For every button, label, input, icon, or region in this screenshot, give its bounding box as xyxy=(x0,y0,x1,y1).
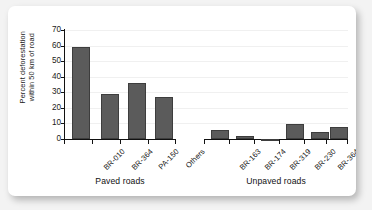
gridline-60 xyxy=(65,46,348,47)
x-tick-unpaved-0 xyxy=(204,140,205,144)
x-category-label-br-230: BR-230 xyxy=(313,147,338,172)
y-tick-label-40: 40 xyxy=(39,73,61,81)
y-axis-line xyxy=(64,29,65,140)
group-label-unpaved-roads: Unpaved roads xyxy=(204,176,348,186)
x-tick-paved-1 xyxy=(92,140,93,144)
x-category-label-br-010: BR-010 xyxy=(102,147,127,172)
y-tick-label-50: 50 xyxy=(39,57,61,65)
figure-root: Percent deforestation within 50 km of ro… xyxy=(0,0,372,210)
x-category-label-br-174: BR-174 xyxy=(263,147,288,172)
x-tick-unpaved-1 xyxy=(229,140,230,144)
x-category-label-unpaved-br-364: BR-364 xyxy=(336,147,356,172)
x-tick-unpaved-6 xyxy=(347,140,348,144)
bar-paved-pa-150 xyxy=(128,83,146,139)
x-tick-paved-2 xyxy=(120,140,121,144)
bar-unpaved-br-364 xyxy=(311,132,329,139)
y-tick-label-60: 60 xyxy=(39,42,61,50)
bar-paved-br-364 xyxy=(101,94,119,139)
x-tick-unpaved-2 xyxy=(254,140,255,144)
gridline-30 xyxy=(65,92,348,93)
x-category-label-br-319: BR-319 xyxy=(288,147,313,172)
y-axis-title: Percent deforestation within 50 km of ro… xyxy=(18,7,36,127)
x-tick-unpaved-3 xyxy=(279,140,280,144)
x-category-label-pa-150: PA-150 xyxy=(156,147,180,171)
bar-unpaved-br-230 xyxy=(286,124,304,139)
gridline-50 xyxy=(65,61,348,62)
x-category-label-paved-others: Others xyxy=(184,147,207,170)
x-category-label-br-163: BR-163 xyxy=(238,147,263,172)
y-tick-label-30: 30 xyxy=(39,88,61,96)
x-category-label-br-364: BR-364 xyxy=(130,147,155,172)
x-tick-paved-0 xyxy=(64,140,65,144)
bar-paved-others xyxy=(155,97,173,139)
bar-unpaved-br-163 xyxy=(211,130,229,139)
y-tick-label-70: 70 xyxy=(39,26,61,34)
bar-chart-plot-area: Percent deforestation within 50 km of ro… xyxy=(8,6,356,196)
bar-paved-br-010 xyxy=(72,47,90,139)
bar-unpaved-others xyxy=(330,127,348,139)
y-tick-label-0: 0 xyxy=(39,135,61,143)
group-label-paved-roads: Paved roads xyxy=(64,176,176,186)
x-tick-unpaved-5 xyxy=(326,140,327,144)
y-tick-label-10: 10 xyxy=(39,119,61,127)
chart-panel: Percent deforestation within 50 km of ro… xyxy=(8,6,356,196)
gridline-70 xyxy=(65,30,348,31)
bar-unpaved-br-319 xyxy=(261,139,279,141)
x-tick-paved-4 xyxy=(175,140,176,144)
x-tick-unpaved-4 xyxy=(304,140,305,144)
y-tick-label-20: 20 xyxy=(39,104,61,112)
gridline-40 xyxy=(65,77,348,78)
x-tick-paved-3 xyxy=(148,140,149,144)
bar-unpaved-br-174 xyxy=(236,136,254,139)
